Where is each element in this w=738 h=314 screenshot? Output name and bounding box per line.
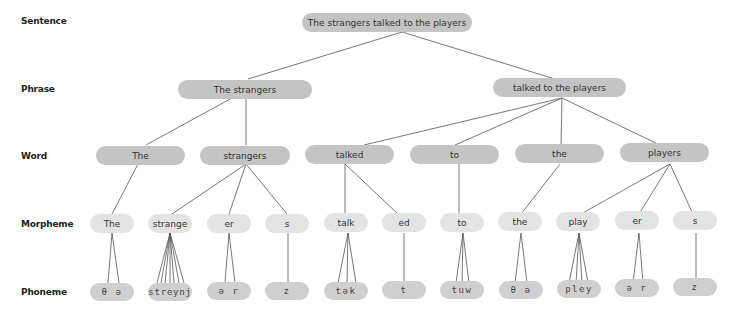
word-node: The <box>96 146 185 165</box>
morpheme-node: talk <box>324 213 368 232</box>
phrase-node: talked to the players <box>493 78 626 97</box>
word-node: the <box>515 144 604 163</box>
word-node: talked <box>305 145 394 164</box>
sentence-node: The strangers talked to the players <box>302 13 472 32</box>
level-label-phoneme: Phoneme <box>21 287 67 297</box>
phoneme-node: ə r <box>615 279 659 297</box>
phoneme-node: t <box>382 281 426 299</box>
morpheme-node: play <box>556 212 600 231</box>
morpheme-node: strange <box>148 214 192 233</box>
phoneme-node: tək <box>324 282 368 300</box>
word-node: to <box>410 145 499 164</box>
morpheme-node: s <box>265 214 309 233</box>
phrase-node: The strangers <box>178 80 312 99</box>
phoneme-node: z <box>673 278 717 296</box>
phoneme-node: ə r <box>207 282 251 300</box>
level-label-morpheme: Morpheme <box>21 219 73 229</box>
morpheme-node: er <box>615 211 659 230</box>
morpheme-node: s <box>673 211 717 230</box>
level-label-phrase: Phrase <box>21 84 55 94</box>
level-label-word: Word <box>21 151 47 161</box>
level-label-sentence: Sentence <box>21 16 67 26</box>
morpheme-node: er <box>207 214 251 233</box>
phoneme-node: θ ə <box>499 281 543 299</box>
linguistic-hierarchy-diagram: Sentence Phrase Word Morpheme Phoneme Th… <box>0 0 738 314</box>
word-node: players <box>620 143 709 162</box>
morpheme-node: to <box>440 213 484 232</box>
phoneme-node: tuw <box>440 281 484 299</box>
word-node: strangers <box>200 146 290 165</box>
phoneme-node: z <box>265 282 309 300</box>
phoneme-node: θ ə <box>90 283 134 301</box>
morpheme-node: The <box>90 214 134 233</box>
morpheme-node: the <box>498 212 542 231</box>
phoneme-node: streynj <box>148 283 192 301</box>
phoneme-node: pley <box>557 280 601 298</box>
morpheme-node: ed <box>382 213 426 232</box>
